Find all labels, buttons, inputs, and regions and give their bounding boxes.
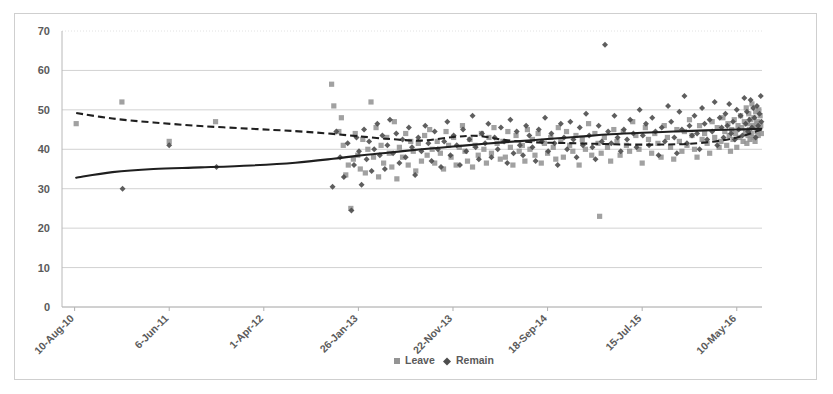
data-point-leave — [668, 145, 673, 150]
data-point-remain — [686, 123, 692, 129]
legend-leave-square-icon — [394, 358, 400, 364]
data-point-remain — [470, 113, 476, 119]
data-point-leave — [694, 155, 699, 160]
x-tick-label-5: 18-Sep-14 — [505, 312, 549, 356]
data-point-leave — [503, 155, 508, 160]
data-point-remain — [611, 113, 617, 119]
data-point-remain — [567, 119, 573, 125]
data-point-remain — [758, 93, 764, 99]
y-tick-label-50: 50 — [38, 104, 50, 116]
y-tick-label-20: 20 — [38, 222, 50, 234]
data-point-remain — [668, 119, 674, 125]
y-tick-label-30: 30 — [38, 183, 50, 195]
data-point-leave — [712, 135, 717, 140]
data-point-remain — [415, 134, 421, 140]
data-point-leave — [119, 99, 124, 104]
data-point-remain — [359, 182, 365, 188]
x-tick-label-1: 6-Jun-11 — [132, 312, 171, 351]
data-point-leave — [649, 151, 654, 156]
data-point-leave — [561, 155, 566, 160]
data-point-leave — [728, 149, 733, 154]
data-point-leave — [406, 162, 411, 167]
data-point-leave — [697, 123, 702, 128]
data-point-remain — [382, 166, 388, 172]
x-tick-label-0: 10-Aug-10 — [32, 312, 76, 356]
data-point-leave — [339, 115, 344, 120]
data-point-leave — [611, 127, 616, 132]
y-tick-label-10: 10 — [38, 262, 50, 274]
data-point-leave — [358, 166, 363, 171]
x-tick-label-3: 26-Jan-13 — [317, 312, 360, 355]
data-point-leave — [522, 159, 527, 164]
data-point-leave — [331, 103, 336, 108]
data-point-leave — [640, 160, 645, 165]
data-point-leave — [577, 162, 582, 167]
data-point-remain — [511, 150, 517, 156]
data-point-remain — [498, 125, 504, 131]
series-remain-points — [120, 42, 765, 214]
x-tick-label-4: 22-Nov-13 — [410, 312, 454, 356]
data-point-remain — [533, 158, 539, 164]
x-axis-tick-marks — [75, 307, 737, 311]
data-point-remain — [120, 186, 126, 192]
data-point-leave — [484, 160, 489, 165]
chart-legend: Leave Remain — [394, 354, 494, 366]
data-point-remain — [507, 117, 513, 123]
data-point-remain — [364, 156, 370, 162]
x-tick-label-7: 10-May-16 — [694, 312, 739, 357]
data-point-leave — [368, 99, 373, 104]
data-point-leave — [403, 131, 408, 136]
x-axis-tick-labels: 10-Aug-106-Jun-111-Apr-1226-Jan-1322-Nov… — [32, 312, 739, 357]
screenshot-root: 010203040506070 10-Aug-106-Jun-111-Apr-1… — [0, 0, 833, 394]
data-point-leave — [397, 145, 402, 150]
data-point-leave — [74, 121, 79, 126]
data-point-remain — [577, 125, 583, 131]
data-point-leave — [692, 147, 697, 152]
y-tick-label-70: 70 — [38, 25, 50, 37]
data-point-leave — [427, 127, 432, 132]
data-point-leave — [491, 125, 496, 130]
data-point-remain — [574, 154, 580, 160]
data-point-remain — [432, 129, 438, 135]
data-point-leave — [363, 170, 368, 175]
data-point-leave — [608, 159, 613, 164]
data-point-leave — [759, 131, 764, 136]
legend-remain-diamond-icon — [443, 358, 451, 366]
data-point-remain — [393, 131, 399, 137]
data-point-leave — [470, 164, 475, 169]
data-point-leave — [553, 157, 558, 162]
data-point-leave — [365, 147, 370, 152]
data-point-leave — [699, 137, 704, 142]
scatter-chart: 010203040506070 10-Aug-106-Jun-111-Apr-1… — [0, 0, 833, 394]
data-point-remain — [692, 113, 698, 119]
data-point-remain — [444, 119, 450, 125]
data-point-remain — [674, 150, 680, 156]
data-point-leave — [389, 164, 394, 169]
data-point-leave — [378, 143, 383, 148]
data-point-remain — [697, 146, 703, 152]
data-point-remain — [702, 121, 708, 127]
data-point-leave — [586, 121, 591, 126]
data-point-remain — [596, 123, 602, 129]
data-point-leave — [371, 155, 376, 160]
data-point-remain — [602, 42, 608, 48]
data-point-leave — [508, 145, 513, 150]
data-point-leave — [419, 159, 424, 164]
data-point-remain — [396, 160, 402, 166]
legend-leave-label: Leave — [405, 354, 435, 366]
data-point-remain — [637, 107, 643, 113]
data-point-remain — [649, 115, 655, 121]
data-point-leave — [570, 149, 575, 154]
data-point-leave — [724, 143, 729, 148]
data-point-remain — [726, 101, 732, 107]
data-point-leave — [539, 160, 544, 165]
data-point-leave — [517, 149, 522, 154]
data-point-leave — [346, 162, 351, 167]
data-point-leave — [465, 159, 470, 164]
data-point-leave — [505, 129, 510, 134]
data-point-remain — [734, 107, 740, 113]
data-point-leave — [425, 153, 430, 158]
data-point-remain — [406, 125, 412, 131]
data-point-remain — [741, 95, 747, 101]
data-point-leave — [679, 149, 684, 154]
